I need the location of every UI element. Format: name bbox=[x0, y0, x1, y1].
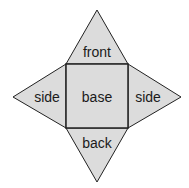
back-label: back bbox=[82, 135, 113, 151]
left-label: side bbox=[34, 89, 60, 105]
pyramid-net: front side base side back bbox=[0, 0, 189, 188]
right-label: side bbox=[135, 89, 161, 105]
base-label: base bbox=[82, 89, 113, 105]
front-label: front bbox=[83, 44, 111, 60]
